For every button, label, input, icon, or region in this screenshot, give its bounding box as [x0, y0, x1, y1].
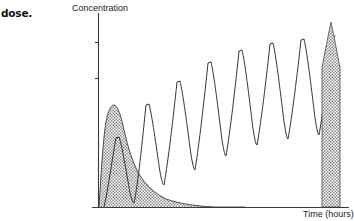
terminal-spike-fill	[322, 22, 340, 207]
single-dose-area	[99, 105, 245, 207]
single-dose-fill	[99, 105, 240, 207]
terminal-spike	[322, 22, 340, 207]
y-axis-label: Concentration	[72, 3, 128, 13]
x-axis-label: Time (hours)	[303, 209, 354, 219]
figure-caption-fragment: dose.	[1, 7, 32, 19]
